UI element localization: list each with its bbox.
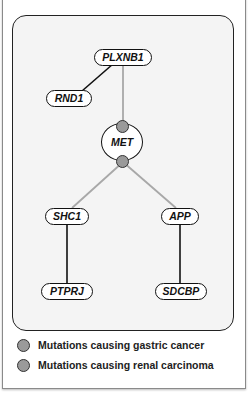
legend-item-gastric: Mutations causing gastric cancer (17, 338, 204, 352)
node-rnd1[interactable]: RND1 (46, 90, 92, 107)
legend-label: Mutations causing gastric cancer (38, 339, 204, 351)
legend-dot-icon (17, 359, 30, 372)
node-sdcbp[interactable]: SDCBP (155, 283, 207, 300)
node-ptprj[interactable]: PTPRJ (41, 283, 93, 300)
legend-item-renal: Mutations causing renal carcinoma (17, 358, 214, 372)
legend-dot-icon (17, 339, 30, 352)
node-plxnb1[interactable]: PLXNB1 (94, 49, 152, 66)
edge-met-app (123, 162, 176, 208)
node-shc1[interactable]: SHC1 (45, 208, 89, 225)
edge-plxnb1-rnd1 (82, 64, 113, 91)
mutation-dot-met-top (116, 120, 129, 133)
node-app[interactable]: APP (161, 208, 199, 225)
edge-met-shc1 (72, 162, 123, 208)
mutation-dot-met-bottom (116, 155, 129, 168)
legend-label: Mutations causing renal carcinoma (38, 359, 214, 371)
